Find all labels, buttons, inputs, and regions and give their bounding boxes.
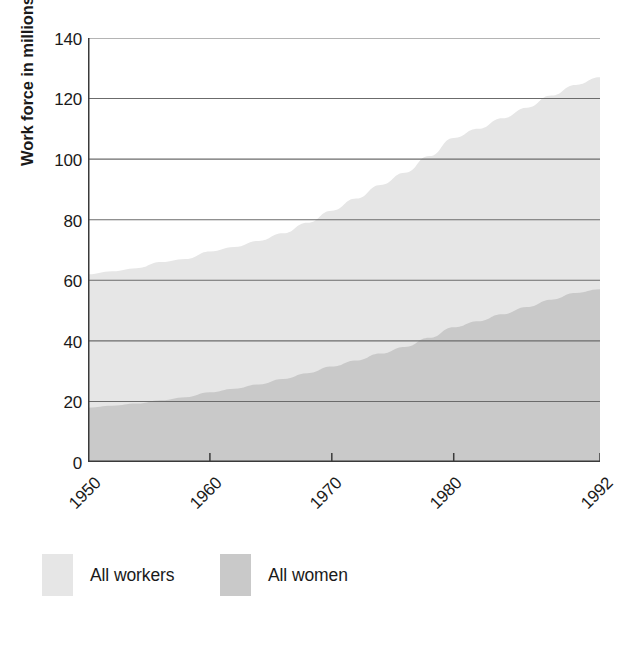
legend-swatch-all-women xyxy=(220,554,251,596)
legend-swatch-all-workers xyxy=(42,554,73,596)
legend-label-all-women: All women xyxy=(268,565,348,586)
chart-figure: Work force in millions 140 120 100 80 60… xyxy=(0,0,627,647)
x-tick-label-1970: 1970 xyxy=(282,474,345,537)
x-tick-label-1980: 1980 xyxy=(402,474,465,537)
legend-item-all-workers: All workers xyxy=(42,553,174,597)
legend-item-all-women: All women xyxy=(220,553,348,597)
x-tick-label-1992: 1992 xyxy=(553,474,616,537)
x-tick-label-1950: 1950 xyxy=(41,474,104,537)
x-tick-label-1960: 1960 xyxy=(162,474,225,537)
legend-label-all-workers: All workers xyxy=(90,565,174,586)
x-axis-tick-labels: 1950 1960 1970 1980 1992 xyxy=(0,0,627,647)
